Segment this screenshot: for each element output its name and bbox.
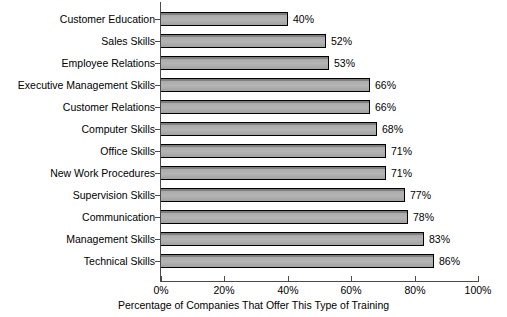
y-axis-tick xyxy=(155,173,161,174)
y-axis-tick xyxy=(155,107,161,108)
bar xyxy=(161,232,424,246)
bar xyxy=(161,210,408,224)
bar-row: New Work Procedures71% xyxy=(0,162,507,184)
x-axis-tick-label: 80% xyxy=(404,284,425,296)
y-axis-tick xyxy=(155,63,161,64)
bar-value-label: 66% xyxy=(375,74,396,96)
bar-row: Communication78% xyxy=(0,206,507,228)
bar xyxy=(161,78,370,92)
x-axis-line xyxy=(160,281,479,282)
x-axis-tick-label: 40% xyxy=(277,284,298,296)
x-axis-tick xyxy=(224,276,225,281)
bar xyxy=(161,100,370,114)
bar-value-label: 53% xyxy=(334,52,355,74)
x-axis-tick xyxy=(161,276,162,281)
category-label: Sales Skills xyxy=(101,30,155,52)
bar-row: Computer Skills68% xyxy=(0,118,507,140)
category-label: Communication xyxy=(82,206,155,228)
category-label: Management Skills xyxy=(66,228,155,250)
bar-row: Technical Skills86% xyxy=(0,250,507,272)
x-axis-tick xyxy=(288,276,289,281)
x-axis-tick-label: 100% xyxy=(465,284,492,296)
bar-value-label: 77% xyxy=(410,184,431,206)
bar-value-label: 86% xyxy=(439,250,460,272)
bar-value-label: 66% xyxy=(375,96,396,118)
y-axis-tick xyxy=(155,217,161,218)
bar-row: Customer Relations66% xyxy=(0,96,507,118)
x-axis-tick-label: 20% xyxy=(213,284,234,296)
y-axis-tick xyxy=(155,195,161,196)
category-label: Technical Skills xyxy=(84,250,155,272)
bar-value-label: 78% xyxy=(413,206,434,228)
y-axis-tick xyxy=(155,151,161,152)
bar xyxy=(161,144,386,158)
category-label: Computer Skills xyxy=(81,118,155,140)
x-axis-tick-label: 0% xyxy=(153,284,168,296)
y-axis-tick xyxy=(155,85,161,86)
bar-row: Management Skills83% xyxy=(0,228,507,250)
category-label: Employee Relations xyxy=(62,52,155,74)
bar xyxy=(161,34,326,48)
bar-value-label: 40% xyxy=(293,8,314,30)
bar xyxy=(161,254,434,268)
y-axis-tick xyxy=(155,129,161,130)
bar xyxy=(161,12,288,26)
y-axis-tick xyxy=(155,41,161,42)
bar xyxy=(161,56,329,70)
y-axis-tick xyxy=(155,261,161,262)
bar-row: Sales Skills52% xyxy=(0,30,507,52)
x-axis-tick xyxy=(415,276,416,281)
bar-row: Employee Relations53% xyxy=(0,52,507,74)
x-axis-tick-label: 60% xyxy=(340,284,361,296)
bar-value-label: 68% xyxy=(382,118,403,140)
bar-chart: Customer Education40%Sales Skills52%Empl… xyxy=(0,0,507,317)
y-axis-tick xyxy=(155,19,161,20)
category-label: Customer Education xyxy=(60,8,155,30)
bar-value-label: 52% xyxy=(331,30,352,52)
category-label: New Work Procedures xyxy=(50,162,155,184)
bar xyxy=(161,122,377,136)
category-label: Customer Relations xyxy=(63,96,155,118)
category-label: Executive Management Skills xyxy=(18,74,155,96)
bar xyxy=(161,166,386,180)
bar xyxy=(161,188,405,202)
x-axis-tick xyxy=(478,276,479,281)
x-axis-tick xyxy=(351,276,352,281)
bar-value-label: 71% xyxy=(391,140,412,162)
bar-row: Supervision Skills77% xyxy=(0,184,507,206)
x-axis-title: Percentage of Companies That Offer This … xyxy=(0,299,507,312)
bar-row: Office Skills71% xyxy=(0,140,507,162)
bar-value-label: 83% xyxy=(429,228,450,250)
bar-row: Executive Management Skills66% xyxy=(0,74,507,96)
y-axis-tick xyxy=(155,239,161,240)
category-label: Office Skills xyxy=(100,140,155,162)
bar-value-label: 71% xyxy=(391,162,412,184)
category-label: Supervision Skills xyxy=(73,184,155,206)
bar-row: Customer Education40% xyxy=(0,8,507,30)
